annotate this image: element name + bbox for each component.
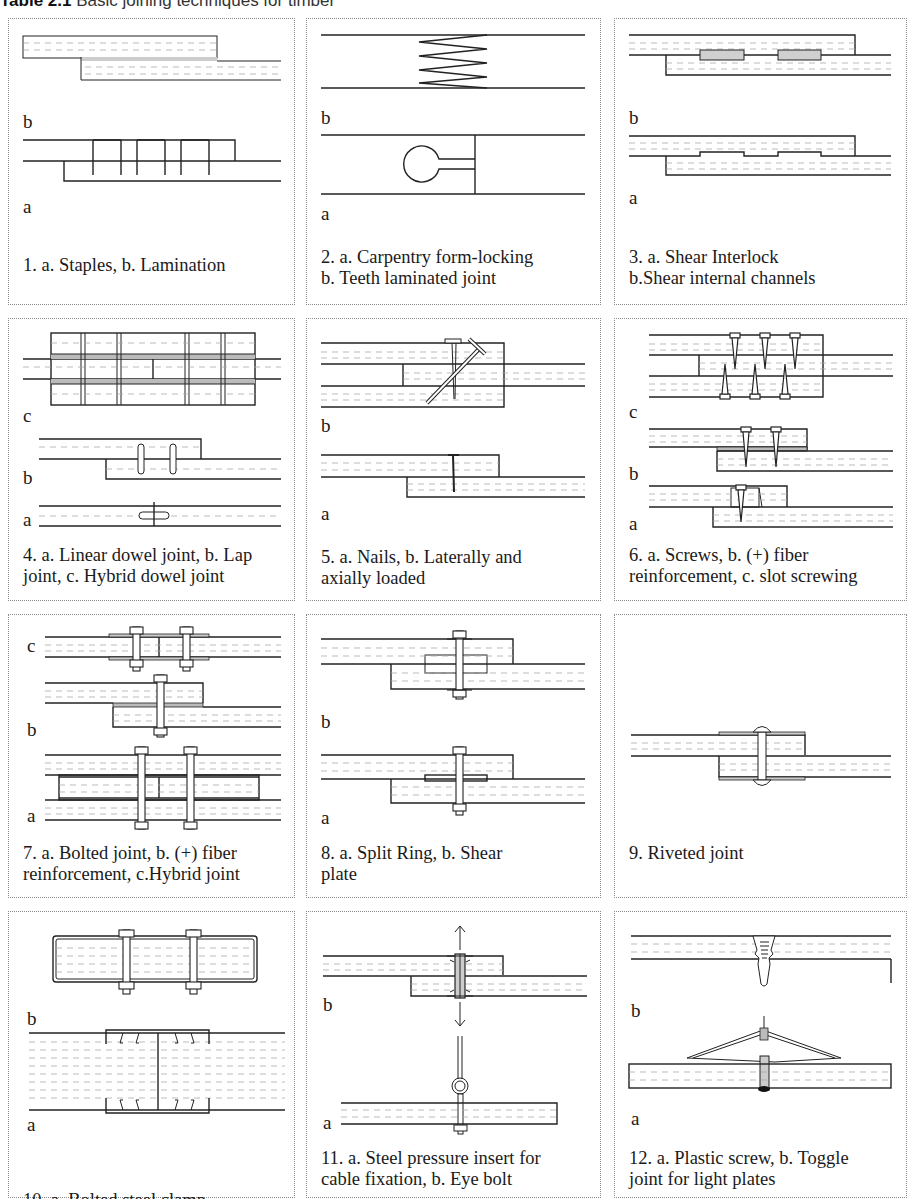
panel-caption: 12. a. Plastic screw, b. Toggle joint fo… [629, 1148, 900, 1190]
sub-label-a: a [23, 509, 31, 531]
panel-caption: 3. a. Shear Interlock b.Shear internal c… [629, 247, 900, 289]
panel-4-dowel-joints: c b a 4. a. Linear dowel joint, b. Lap j… [8, 318, 295, 601]
panel-caption: 2. a. Carpentry form-locking b. Teeth la… [321, 247, 594, 289]
panel-9-riveted-joint: 9. Riveted joint [614, 614, 907, 898]
panel-1-staples-lamination: b a 1. a. Staples, b. Lamination [8, 18, 295, 305]
sub-label-b: b [631, 1000, 641, 1022]
sub-label-a: a [321, 203, 329, 225]
panel-11-steel-insert-eye-bolt: b a 11. a. Steel pressure insert for cab… [306, 911, 601, 1198]
panel-3-shear-interlock: b a 3. a. Shear Interlock b.Shear intern… [614, 18, 907, 305]
panel-caption: 7. a. Bolted joint, b. (+) fiber reinfor… [23, 843, 288, 885]
sub-label-a: a [323, 1112, 331, 1134]
sub-label-b: b [321, 711, 331, 733]
panel-caption: 4. a. Linear dowel joint, b. Lap joint, … [23, 545, 288, 587]
sub-label-b: b [23, 111, 33, 133]
sub-label-c: c [23, 405, 31, 427]
sub-label-c: c [27, 635, 35, 657]
sub-label-a: a [629, 187, 637, 209]
panel-caption: 10. a. Bolted steel clamp, b. Nail plate [23, 1148, 288, 1199]
panel-caption: 1. a. Staples, b. Lamination [23, 255, 288, 276]
sub-label-a: a [27, 805, 35, 827]
panel-7-bolted-joints: c b a 7. a. Bolted joint, b. (+) fiber r… [8, 614, 295, 898]
sub-label-a: a [27, 1114, 35, 1136]
sub-label-b: b [323, 994, 333, 1016]
sub-label-a: a [321, 503, 329, 525]
panel-caption: 6. a. Screws, b. (+) fiber reinforcement… [629, 545, 900, 587]
sub-label-b: b [629, 463, 639, 485]
panel-caption: 9. Riveted joint [629, 843, 900, 864]
sub-label-b: b [321, 107, 331, 129]
panel-caption: 5. a. Nails, b. Laterally and axially lo… [321, 547, 594, 589]
panel-caption: 8. a. Split Ring, b. Shear plate [321, 843, 594, 885]
sub-label-a: a [23, 196, 31, 218]
panel-6-screws: c b a 6. a. Screws, b. (+) fiber reinfor… [614, 318, 907, 601]
table-title-text: Basic joining techniques for timber [76, 0, 335, 10]
panel-12-plastic-screw-toggle: b a 12. a. Plastic screw, b. Toggle join… [614, 911, 907, 1198]
panel-2-carpentry-teeth: b a 2. a. Carpentry form-locking b. Teet… [306, 18, 601, 305]
panel-10-clamp-nail-plate: b a 10. a. Bolted steel clamp, b. Nail p… [8, 911, 295, 1198]
sub-label-b: b [629, 107, 639, 129]
sub-label-b: b [27, 719, 37, 741]
sub-label-b: b [27, 1008, 37, 1030]
sub-label-b: b [23, 467, 33, 489]
table-number: Table 2.1 [0, 0, 72, 10]
sub-label-b: b [321, 415, 331, 437]
panel-8-split-ring-shear-plate: b a 8. a. Split Ring, b. Shear plate [306, 614, 601, 898]
panel-5-nails: b a 5. a. Nails, b. Laterally and axiall… [306, 318, 601, 601]
sub-label-c: c [629, 401, 637, 423]
sub-label-a: a [631, 1108, 639, 1130]
panel-caption: 11. a. Steel pressure insert for cable f… [321, 1148, 594, 1190]
sub-label-a: a [629, 513, 637, 535]
table-title: Table 2.1 Basic joining techniques for t… [0, 0, 335, 11]
sub-label-a: a [321, 807, 329, 829]
